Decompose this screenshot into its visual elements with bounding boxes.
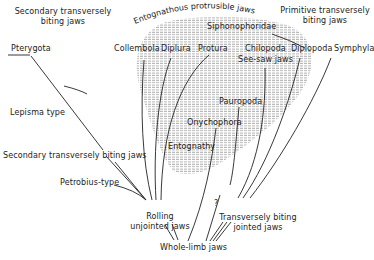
label-diplura: Diplura (161, 44, 191, 54)
label-onychophora: Onychophora (187, 118, 242, 128)
label-petrobius: Petrobius-type (60, 178, 119, 188)
label-pauropoda: Pauropoda (219, 97, 262, 107)
label-collembola: Collembola (114, 44, 160, 54)
label-entognathy: Entognathy (168, 142, 215, 152)
label-chilopoda: Chilopoda (245, 44, 286, 54)
label-see-saw: See-saw jaws (238, 55, 293, 65)
label-pterygota: Pterygota (11, 44, 51, 54)
label-symphyla: Symphyla (334, 44, 374, 54)
label-question: ? (214, 199, 218, 209)
label-diplopoda: Diplopoda (291, 44, 332, 54)
label-line: unjointed jaws (130, 222, 189, 232)
label-secondary-mid: Secondary transversely biting jaws (3, 151, 147, 161)
label-line: biting jaws (280, 16, 370, 26)
label-line: Primitive transversely (280, 6, 370, 16)
label-line: Transversely biting (219, 213, 296, 223)
label-lepisma: Lepisma type (10, 108, 65, 118)
label-siphonophoridae: Siphonophoridae (207, 22, 276, 32)
label-whole-limb: Whole-limb jaws (160, 243, 227, 253)
label-protura: Protura (198, 44, 228, 54)
label-line: Rolling (130, 212, 189, 222)
label-transversely: Transversely biting jointed jaws (219, 213, 296, 233)
label-line: jointed jaws (219, 223, 296, 233)
label-rolling: Rolling unjointed jaws (130, 212, 189, 232)
label-primitive: Primitive transversely biting jaws (280, 6, 370, 26)
